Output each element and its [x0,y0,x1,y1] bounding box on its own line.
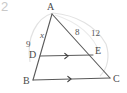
geometry-diagram-svg [0,0,127,93]
measure-label-ad: 9 [26,39,31,49]
geometry-figure: 2 A B C D E 9 x 8 12 [0,0,127,93]
vertex-label-B: B [23,76,30,86]
vertex-label-A: A [47,2,54,12]
parallel-marks-group [65,53,71,81]
measure-label-db: x [40,30,44,40]
measure-label-ae: 8 [75,27,80,37]
segment-AC [52,14,110,78]
vertex-label-D: D [29,50,36,60]
vertex-label-E: E [95,46,101,56]
segment-AB [33,14,52,80]
measure-label-ec: 12 [91,28,100,38]
vertex-label-C: C [113,74,120,84]
